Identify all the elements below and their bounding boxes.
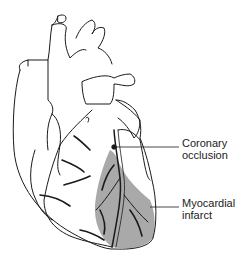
label-line-2: infarct: [182, 209, 235, 221]
myocardial-infarct-label: Myocardial infarct: [182, 197, 235, 221]
heart-illustration: [0, 0, 244, 262]
coronary-occlusion-label: Coronary occlusion: [182, 137, 228, 161]
label-line-1: Coronary: [182, 137, 228, 149]
pulmonary-trunk: [82, 74, 135, 104]
occlusion-point: [112, 145, 116, 149]
label-line-1: Myocardial: [182, 197, 235, 209]
label-line-2: occlusion: [182, 149, 228, 161]
